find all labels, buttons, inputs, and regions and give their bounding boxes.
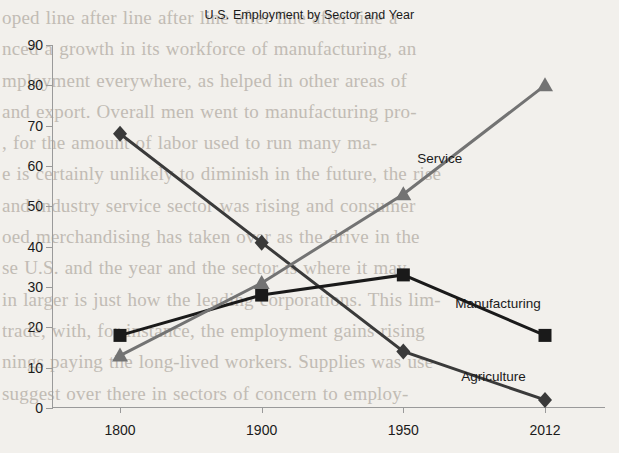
series-label-agriculture: Agriculture [461, 368, 526, 383]
x-axis-tick-label: 1950 [388, 422, 419, 438]
y-axis-tick-label: 30 [27, 279, 43, 295]
data-point-marker [539, 329, 552, 342]
data-point-marker [255, 289, 268, 302]
data-point-marker [112, 348, 128, 362]
y-axis-tick-label: 0 [35, 400, 43, 416]
x-axis-tick-label: 1800 [104, 422, 135, 438]
data-point-marker [537, 77, 553, 91]
x-axis-tick-label: 2012 [529, 422, 560, 438]
data-point-marker [114, 329, 127, 342]
data-point-marker [254, 275, 270, 289]
line-chart: U.S. Employment by Sector and Year 01020… [0, 0, 619, 453]
y-axis-tick-label: 90 [27, 37, 43, 53]
series-layer [52, 45, 605, 408]
data-point-marker [397, 268, 410, 281]
y-axis-tick-label: 80 [27, 77, 43, 93]
y-axis-tick-label: 70 [27, 118, 43, 134]
plot-area: 0102030405060708090 1800190019502012 Ser… [52, 45, 605, 408]
y-axis-tick-label: 40 [27, 239, 43, 255]
y-axis-tick-label: 10 [27, 360, 43, 376]
series-line-service [120, 85, 545, 355]
y-axis-tick [46, 408, 53, 409]
x-axis-tick-label: 1900 [246, 422, 277, 438]
series-label-service: Service [417, 150, 462, 165]
y-axis-tick-label: 60 [27, 158, 43, 174]
y-axis-tick-label: 20 [27, 319, 43, 335]
series-label-manufacturing: Manufacturing [455, 296, 541, 311]
series-line-agriculture [120, 134, 545, 400]
chart-title: U.S. Employment by Sector and Year [0, 8, 619, 22]
y-axis-tick-label: 50 [27, 198, 43, 214]
data-point-marker [538, 392, 552, 408]
